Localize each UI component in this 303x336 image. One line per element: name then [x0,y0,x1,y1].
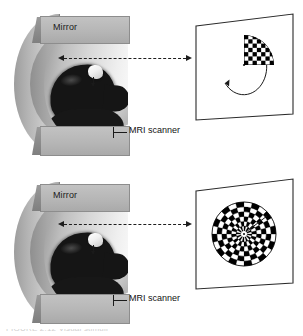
caption-text: FIGURE 2.12 Visual stimuli [6,329,296,332]
screen-svg [190,10,298,130]
mirror-block-icon [88,65,103,79]
mirror-pointer-icon [93,77,94,86]
projection-screen-bottom [190,175,298,300]
light-path-arrow-bottom [58,220,192,229]
panel-bottom: Mirror MRI scanner [0,168,303,336]
panel-top: Mirror MRI scanner [0,0,303,168]
mirror-label: Mirror [53,22,77,32]
mri-scanner-label: MRI scanner [129,125,180,135]
scanner-bore [44,203,128,301]
scanner-bore [44,35,128,133]
projection-screen-top [190,10,298,130]
figure-caption: FIGURE 2.12 Visual stimuli [6,329,296,336]
mirror-label-slab: Mirror [40,16,130,44]
mirror-block-icon [88,233,103,247]
light-path-arrow-top [58,54,192,63]
callout-leader-line [113,132,127,133]
mirror-label-slab: Mirror [40,184,130,212]
neck-skin [102,93,128,127]
neck-skin [102,261,128,295]
mri-scanner-label: MRI scanner [129,293,180,303]
fixation-point [243,233,245,235]
mri-scanner-callout-bottom: MRI scanner [113,293,199,307]
figure-container: Mirror MRI scanner [0,0,303,336]
screen-surface [196,14,293,120]
mirror-pointer-icon [93,245,94,254]
mri-scanner-callout-top: MRI scanner [113,125,199,139]
callout-leader-line [113,300,127,301]
screen-svg [190,175,298,300]
dashed-line [64,58,186,59]
dashed-line [64,224,186,225]
mirror-label: Mirror [53,190,77,200]
